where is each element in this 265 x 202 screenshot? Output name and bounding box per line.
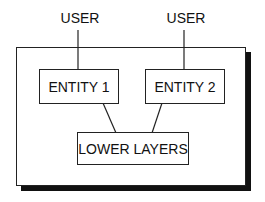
entity-1-label: ENTITY 1 <box>48 79 109 95</box>
lower-layers-box: LOWER LAYERS <box>77 132 189 165</box>
entity-2-box: ENTITY 2 <box>145 69 225 104</box>
user-label-1: USER <box>61 10 100 26</box>
lower-layers-label: LOWER LAYERS <box>78 141 187 157</box>
entity-2-label: ENTITY 2 <box>154 79 215 95</box>
entity-1-box: ENTITY 1 <box>39 69 119 104</box>
user-label-2: USER <box>167 10 206 26</box>
